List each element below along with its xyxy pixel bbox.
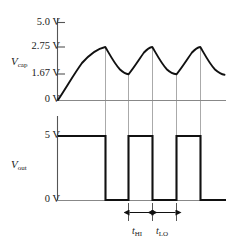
capacitor-waveform-trace <box>58 47 225 100</box>
vout-symbol: V <box>11 158 18 170</box>
out-ytick-label-5v: 5 V <box>0 130 60 141</box>
vout-subscript: out <box>18 164 27 172</box>
vcap-symbol: V <box>11 55 18 67</box>
t-hi-label: tHI <box>132 226 142 236</box>
waveform-canvas <box>0 0 233 246</box>
t-lo-subscript: LO <box>159 230 168 238</box>
vcap-label: Vcap <box>11 56 27 67</box>
cap-ytick-label-167v: 1.67 V <box>0 68 60 79</box>
cap-ytick-label-5v: 5.0 V <box>0 17 60 28</box>
cap-ytick-label-275v: 2.75 V <box>0 41 60 52</box>
cap-ytick-label-0v: 0 V <box>0 94 60 105</box>
output-waveform-trace <box>58 136 226 200</box>
out-ytick-label-0v: 0 V <box>0 194 60 205</box>
vcap-subscript: cap <box>18 61 28 69</box>
t-lo-label: tLO <box>156 226 168 236</box>
timing-diagram-figure: 5.0 V 2.75 V 1.67 V 0 V Vcap 5 V 0 V Vou… <box>0 0 233 246</box>
vout-label: Vout <box>11 159 27 170</box>
t-hi-subscript: HI <box>135 230 142 238</box>
